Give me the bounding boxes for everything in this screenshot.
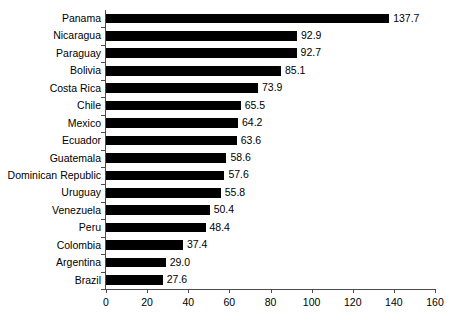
- y-axis-tick: [101, 184, 105, 185]
- category-label: Venezuela: [52, 202, 101, 219]
- category-label: Mexico: [68, 115, 101, 132]
- bar-value-label: 137.7: [393, 12, 419, 25]
- bar: [106, 275, 163, 285]
- bar: [106, 171, 224, 181]
- x-axis-tick: [271, 289, 272, 293]
- x-axis-tick: [147, 289, 148, 293]
- bar: [106, 153, 226, 163]
- x-axis-tick-label: 40: [182, 296, 194, 309]
- bar-row: 137.7: [106, 10, 435, 27]
- y-axis-tick: [101, 27, 105, 28]
- bar: [106, 48, 297, 58]
- category-label: Brazil: [75, 272, 101, 289]
- bar-row: 27.6: [106, 272, 435, 289]
- bar-value-label: 29.0: [170, 256, 190, 269]
- x-axis-tick: [106, 289, 107, 293]
- y-axis-tick: [101, 115, 105, 116]
- category-label: Peru: [79, 219, 101, 236]
- bar-value-label: 92.7: [301, 46, 321, 59]
- bar-row: 65.5: [106, 97, 435, 114]
- bar-value-label: 85.1: [285, 64, 305, 77]
- y-axis-tick: [101, 62, 105, 63]
- bar-value-label: 65.5: [245, 99, 265, 112]
- x-axis-tick: [353, 289, 354, 293]
- category-label: Costa Rica: [50, 80, 101, 97]
- bar: [106, 223, 206, 233]
- bar-row: 85.1: [106, 62, 435, 79]
- bar: [106, 101, 241, 111]
- bar: [106, 83, 258, 93]
- y-axis-tick: [101, 219, 105, 220]
- bar: [106, 205, 210, 215]
- category-label: Colombia: [57, 237, 101, 254]
- category-label: Dominican Republic: [8, 167, 101, 184]
- bar-value-label: 92.9: [301, 29, 321, 42]
- bar: [106, 31, 297, 41]
- bar-chart: PanamaNicaraguaParaguayBoliviaCosta Rica…: [0, 0, 453, 321]
- y-axis-tick: [101, 150, 105, 151]
- x-axis-tick-label: 100: [303, 296, 321, 309]
- bar-row: 50.4: [106, 202, 435, 219]
- y-axis-tick: [101, 289, 105, 290]
- bar-value-label: 50.4: [214, 203, 234, 216]
- bar: [106, 136, 237, 146]
- bar: [106, 66, 281, 76]
- bar-row: 92.7: [106, 45, 435, 62]
- category-axis-labels: PanamaNicaraguaParaguayBoliviaCosta Rica…: [0, 10, 101, 289]
- category-label: Chile: [77, 97, 101, 114]
- bar-row: 37.4: [106, 237, 435, 254]
- x-axis-tick: [394, 289, 395, 293]
- x-axis-tick-label: 140: [385, 296, 403, 309]
- y-axis-tick: [101, 132, 105, 133]
- category-label: Bolivia: [70, 62, 101, 79]
- bar-rows: 137.792.992.785.173.965.564.263.658.657.…: [106, 10, 435, 289]
- bar-row: 73.9: [106, 80, 435, 97]
- bar: [106, 240, 183, 250]
- bar-row: 58.6: [106, 150, 435, 167]
- x-axis-tick-label: 120: [344, 296, 362, 309]
- bar-value-label: 64.2: [242, 116, 262, 129]
- x-axis-tick: [312, 289, 313, 293]
- x-axis-tick-label: 80: [265, 296, 277, 309]
- bar-row: 48.4: [106, 219, 435, 236]
- x-axis-tick: [435, 289, 436, 293]
- category-label: Argentina: [56, 254, 101, 271]
- bar-value-label: 27.6: [167, 273, 187, 286]
- x-axis-tick: [188, 289, 189, 293]
- category-label: Nicaragua: [53, 27, 101, 44]
- bar-value-label: 57.6: [228, 168, 248, 181]
- bar-row: 63.6: [106, 132, 435, 149]
- category-label: Ecuador: [62, 132, 101, 149]
- bar-row: 64.2: [106, 115, 435, 132]
- y-axis-tick: [101, 254, 105, 255]
- bar-row: 92.9: [106, 27, 435, 44]
- category-label: Uruguay: [61, 184, 101, 201]
- bar-value-label: 63.6: [241, 134, 261, 147]
- category-label: Panama: [62, 10, 101, 27]
- y-axis-tick: [101, 97, 105, 98]
- y-axis-tick: [101, 237, 105, 238]
- y-axis-tick: [101, 167, 105, 168]
- bar: [106, 188, 221, 198]
- bar: [106, 258, 166, 268]
- y-axis-tick: [101, 45, 105, 46]
- bar-row: 55.8: [106, 184, 435, 201]
- bar-value-label: 37.4: [187, 238, 207, 251]
- x-axis-tick: [229, 289, 230, 293]
- x-axis-tick-label: 0: [103, 296, 109, 309]
- y-axis-tick: [101, 202, 105, 203]
- bar-value-label: 48.4: [210, 221, 230, 234]
- plot-area: 137.792.992.785.173.965.564.263.658.657.…: [106, 10, 435, 289]
- y-axis-tick: [101, 272, 105, 273]
- bar-value-label: 55.8: [225, 186, 245, 199]
- bar: [106, 14, 389, 24]
- category-label: Guatemala: [50, 150, 101, 167]
- bar: [106, 118, 238, 128]
- x-axis-tick-label: 20: [141, 296, 153, 309]
- bar-value-label: 58.6: [230, 151, 250, 164]
- bar-value-label: 73.9: [262, 81, 282, 94]
- category-label: Paraguay: [56, 45, 101, 62]
- bar-row: 57.6: [106, 167, 435, 184]
- bar-row: 29.0: [106, 254, 435, 271]
- x-axis-tick-label: 60: [224, 296, 236, 309]
